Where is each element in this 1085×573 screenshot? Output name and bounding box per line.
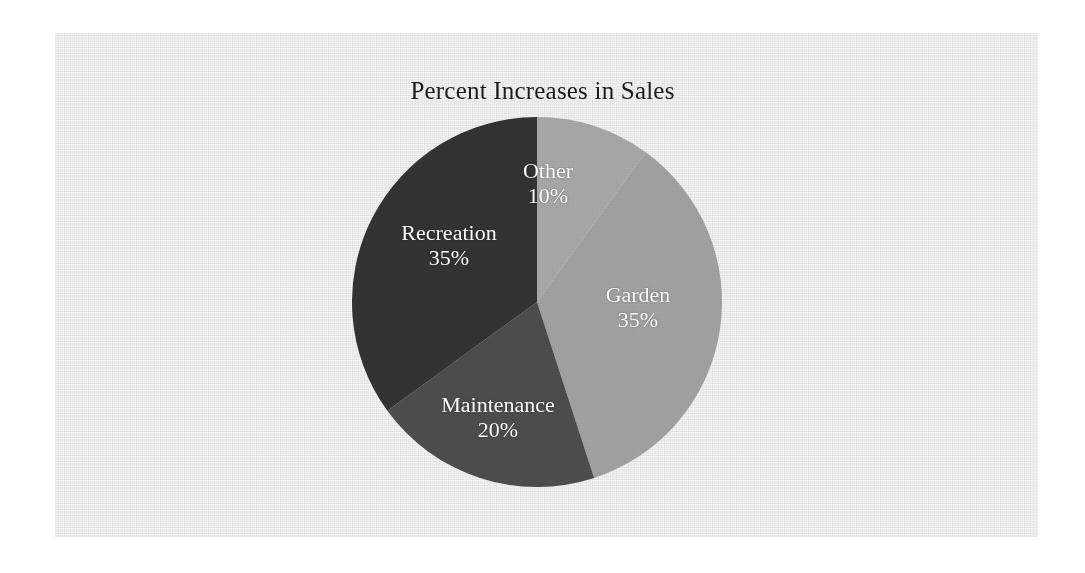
pie-label-other-value: 10% — [498, 183, 598, 208]
pie-label-garden-value: 35% — [578, 307, 698, 332]
chart-page: Percent Increases in Sales Other 10% Gar… — [0, 0, 1085, 573]
pie-label-other-name: Other — [523, 158, 573, 183]
pie-label-recreation-name: Recreation — [401, 220, 496, 245]
page-title: Percent Increases in Sales — [0, 76, 1085, 106]
pie-label-maintenance-name: Maintenance — [441, 392, 555, 417]
pie-label-maintenance-value: 20% — [408, 417, 588, 442]
pie-label-garden: Garden 35% — [578, 282, 698, 332]
pie-label-recreation-value: 35% — [374, 245, 524, 270]
pie-label-garden-name: Garden — [606, 282, 671, 307]
pie-label-maintenance: Maintenance 20% — [408, 392, 588, 442]
pie-label-recreation: Recreation 35% — [374, 220, 524, 270]
pie-label-other: Other 10% — [498, 158, 598, 208]
